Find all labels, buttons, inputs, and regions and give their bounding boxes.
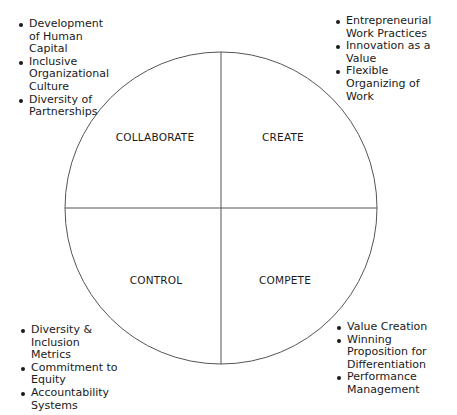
list-item: Diversity & Inclusion Metrics — [20, 324, 120, 362]
compete-bullet-list: Value Creation Winning Proposition for D… — [336, 321, 454, 397]
list-item: Diversity of Partnerships — [18, 94, 116, 119]
quadrant-label-create: CREATE — [262, 131, 304, 143]
list-item: Entrepreneurial Work Practices — [335, 15, 447, 40]
list-item: Performance Management — [336, 371, 454, 396]
list-item: Winning Proposition for Differentiation — [336, 334, 454, 372]
list-item: Commitment to Equity — [20, 362, 120, 387]
list-item: Innovation as a Value — [335, 40, 447, 65]
collaborate-bullet-list: Development of Human Capital Inclusive O… — [18, 18, 116, 119]
control-bullet-list: Diversity & Inclusion Metrics Commitment… — [20, 324, 120, 412]
list-item: Inclusive Organizational Culture — [18, 56, 116, 94]
list-item: Accountability Systems — [20, 387, 120, 412]
quadrant-label-control: CONTROL — [130, 274, 183, 286]
create-bullet-list: Entrepreneurial Work Practices Innovatio… — [335, 15, 447, 103]
list-item: Value Creation — [336, 321, 454, 334]
quadrant-label-compete: COMPETE — [259, 274, 311, 286]
list-item: Development of Human Capital — [18, 18, 116, 56]
list-item: Flexible Organizing of Work — [335, 65, 447, 103]
quadrant-label-collaborate: COLLABORATE — [116, 131, 195, 143]
